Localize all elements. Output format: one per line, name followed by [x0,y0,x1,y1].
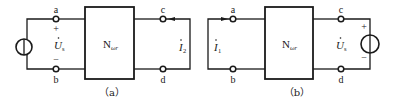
caption-b: （b） [284,87,310,98]
network-subscript: ωr [290,44,298,51]
minus-sign: − [361,52,367,63]
current-arrow-icon [221,17,228,21]
current-label-a: I 2 [178,39,186,54]
current-subscript: 2 [183,47,186,54]
current-arrow-icon [168,17,175,21]
network-symbol: N [103,38,111,50]
network-label-b: N ωr [282,38,298,51]
circuit-diagram: a b c d + − U s N ωr I 2 （a） [0,0,398,107]
terminal-a-icon [230,16,236,22]
voltage-subscript: s [344,45,347,52]
source-voltage-label-a: U s [54,37,65,52]
phasor-dot [215,39,217,41]
terminal-b-icon [53,66,59,72]
terminal-label-d: d [161,74,166,85]
source-voltage-label-b: U s [336,37,347,52]
voltage-subscript: s [62,45,65,52]
terminal-c-icon [338,16,344,22]
minus-sign: − [53,54,59,65]
network-subscript: ωr [111,44,119,51]
terminal-label-a: a [231,4,236,15]
plus-sign: + [361,21,367,32]
terminal-label-b: b [54,74,59,85]
terminal-d-icon [338,66,344,72]
terminal-b-icon [230,66,236,72]
terminal-d-icon [160,66,166,72]
terminal-label-c: c [339,4,344,15]
phasor-dot [58,37,60,39]
network-symbol: N [282,38,290,50]
terminal-label-c: c [161,4,166,15]
phasor-dot [180,39,182,41]
terminal-a-icon [53,16,59,22]
current-label-b: I 1 [213,39,221,54]
phasor-dot [340,37,342,39]
circuit-b [208,7,379,79]
terminal-c-icon [160,16,166,22]
current-subscript: 1 [218,47,221,54]
caption-a: （a） [99,87,125,98]
diagram-canvas: a b c d + − U s N ωr I 2 （a） [0,0,398,107]
terminal-label-a: a [54,4,59,15]
short-circuit-wire-b [208,19,230,69]
terminal-label-b: b [231,74,236,85]
plus-sign: + [53,23,59,34]
terminal-label-d: d [339,74,344,85]
short-circuit-wire-a [166,19,190,69]
network-label-a: N ωr [103,38,119,51]
